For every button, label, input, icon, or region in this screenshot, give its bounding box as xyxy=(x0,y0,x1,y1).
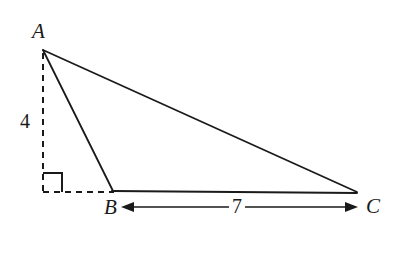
arrow-head-right-icon xyxy=(345,202,358,212)
edge-AC xyxy=(43,50,357,192)
edge-AB xyxy=(43,50,113,191)
right-angle-square-icon xyxy=(43,173,62,192)
vertex-label-b: B xyxy=(104,197,117,218)
vertex-label-c: C xyxy=(366,196,380,217)
geometry-figure: A B C 4 7 xyxy=(0,0,395,258)
figure-canvas xyxy=(0,0,395,258)
vertex-label-a: A xyxy=(32,21,45,42)
arrow-head-left-icon xyxy=(121,202,134,212)
base-length-label: 7 xyxy=(229,196,245,216)
altitude-length-label: 4 xyxy=(17,111,33,131)
edge-BC xyxy=(112,191,357,193)
